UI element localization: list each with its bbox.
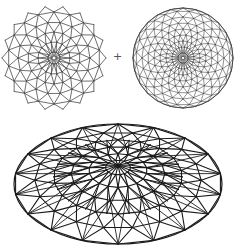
elliptical-dome-figure	[14, 124, 222, 244]
star-lattice-figure	[2, 7, 106, 109]
circular-lattice-figure	[133, 8, 233, 108]
geometric-lattice-diagram	[0, 0, 234, 250]
plus-operator: +	[113, 51, 122, 62]
